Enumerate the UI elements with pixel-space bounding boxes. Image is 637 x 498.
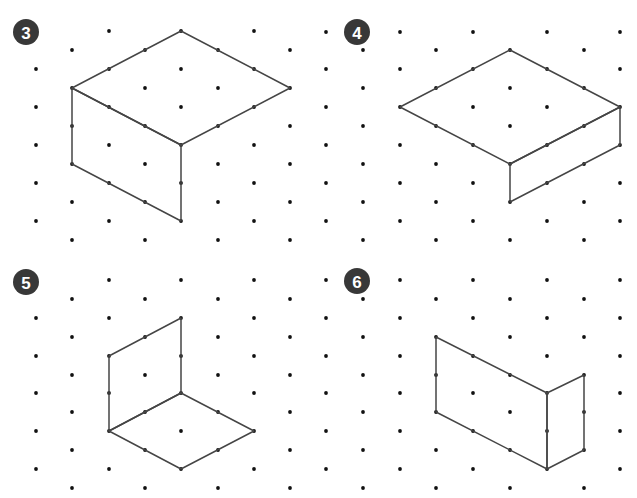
shape-face: [400, 50, 620, 164]
grid-dot: [70, 200, 74, 204]
dot-grid: [324, 278, 622, 490]
grid-dot: [618, 467, 622, 471]
grid-dot: [216, 373, 220, 377]
grid-dot: [398, 278, 402, 282]
grid-dot: [288, 486, 292, 490]
grid-dot: [508, 86, 512, 90]
grid-dot: [288, 335, 292, 339]
grid-dot: [252, 316, 256, 320]
grid-dot: [545, 30, 549, 34]
exercise-number-badge: 4: [344, 19, 370, 45]
grid-dot: [288, 410, 292, 414]
grid-dot: [361, 410, 365, 414]
shape-face: [510, 107, 620, 202]
grid-dot: [179, 105, 183, 109]
shape-face: [547, 375, 584, 469]
grid-dot: [618, 181, 622, 185]
badge-number: 3: [21, 24, 30, 43]
grid-dot: [545, 219, 549, 223]
grid-dot: [179, 429, 183, 433]
grid-dot: [324, 105, 328, 109]
grid-dot: [545, 105, 549, 109]
grid-dot: [288, 448, 292, 452]
grid-dot: [508, 238, 512, 242]
grid-dot: [252, 467, 256, 471]
grid-dot: [618, 354, 622, 358]
panel-4: 4: [324, 19, 622, 242]
grid-dot: [143, 373, 147, 377]
grid-dot: [361, 335, 365, 339]
grid-dot: [252, 354, 256, 358]
grid-dot: [70, 373, 74, 377]
grid-dot: [508, 124, 512, 128]
grid-dot: [618, 429, 622, 433]
dot-grid: [324, 30, 622, 242]
exercise-number-badge: 5: [13, 269, 39, 295]
grid-dot: [361, 162, 365, 166]
grid-dot: [252, 29, 256, 33]
grid-dot: [107, 29, 111, 33]
grid-dot: [288, 124, 292, 128]
grid-dot: [434, 238, 438, 242]
grid-dot: [324, 143, 328, 147]
panel-3: 3: [13, 19, 292, 242]
grid-dot: [324, 30, 328, 34]
dot-grid: [34, 278, 292, 490]
grid-dot: [70, 238, 74, 242]
panel-6: 6: [324, 268, 622, 490]
shape-face: [72, 88, 181, 221]
grid-dot: [398, 181, 402, 185]
grid-dot: [70, 410, 74, 414]
grid-dot: [471, 316, 475, 320]
grid-dot: [471, 105, 475, 109]
grid-dot: [582, 297, 586, 301]
isometric-shape: [109, 318, 254, 469]
grid-dot: [324, 467, 328, 471]
grid-dot: [618, 67, 622, 71]
grid-dot: [288, 200, 292, 204]
grid-dot: [70, 297, 74, 301]
shape-face: [72, 31, 290, 145]
grid-dot: [618, 391, 622, 395]
grid-dot: [398, 30, 402, 34]
grid-dot: [70, 448, 74, 452]
grid-dot: [34, 67, 38, 71]
grid-dot: [361, 486, 365, 490]
grid-dot: [434, 162, 438, 166]
grid-dot: [618, 219, 622, 223]
shape-face: [436, 337, 547, 469]
grid-dot: [361, 373, 365, 377]
grid-dot: [216, 335, 220, 339]
grid-dot: [70, 335, 74, 339]
grid-dot: [70, 486, 74, 490]
grid-dot: [324, 219, 328, 223]
grid-dot: [70, 48, 74, 52]
grid-dot: [288, 238, 292, 242]
grid-dot: [34, 467, 38, 471]
grid-dot: [107, 467, 111, 471]
grid-dot: [582, 48, 586, 52]
grid-dot: [179, 278, 183, 282]
grid-dot: [471, 181, 475, 185]
grid-dot: [34, 143, 38, 147]
badge-number: 5: [21, 274, 30, 293]
grid-dot: [361, 238, 365, 242]
grid-dot: [508, 486, 512, 490]
grid-dot: [252, 278, 256, 282]
grid-dot: [288, 48, 292, 52]
grid-dot: [107, 219, 111, 223]
grid-dot: [252, 391, 256, 395]
grid-dot: [143, 238, 147, 242]
grid-dot: [34, 105, 38, 109]
grid-dot: [398, 316, 402, 320]
grid-dot: [34, 181, 38, 185]
grid-dot: [143, 297, 147, 301]
grid-dot: [34, 219, 38, 223]
grid-dot: [179, 67, 183, 71]
grid-dot: [471, 467, 475, 471]
grid-dot: [398, 467, 402, 471]
grid-dot: [361, 297, 365, 301]
grid-dot: [398, 219, 402, 223]
grid-dot: [582, 200, 586, 204]
grid-dot: [252, 143, 256, 147]
